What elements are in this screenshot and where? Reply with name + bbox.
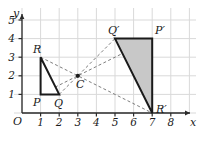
y-tick-4: 4: [7, 32, 15, 44]
coordinate-plane: 1 2 3 4 5 6 7 8 1 2 3 4 5 O x y P Q R Q′…: [0, 0, 204, 141]
y-tick-3: 3: [8, 51, 15, 63]
x-tick-3: 3: [74, 116, 81, 128]
label-p-prime: P′: [154, 24, 165, 37]
x-tick-8: 8: [167, 116, 174, 128]
label-q-prime: Q′: [108, 24, 120, 37]
label-q: Q: [54, 97, 63, 110]
x-tick-4: 4: [92, 116, 100, 128]
label-r: R: [32, 43, 41, 56]
dilation-diagram: 1 2 3 4 5 6 7 8 1 2 3 4 5 O x y P Q R Q′…: [0, 0, 204, 141]
origin-label: O: [13, 115, 22, 128]
x-tick-6: 6: [130, 116, 137, 128]
y-tick-1: 1: [8, 88, 15, 100]
x-tick-2: 2: [55, 116, 63, 128]
y-tick-2: 2: [7, 69, 15, 81]
x-axis-label: x: [190, 116, 197, 129]
label-c: C: [76, 78, 85, 91]
x-tick-1: 1: [37, 116, 44, 128]
label-r-prime: R′: [155, 103, 167, 116]
y-axis-label: y: [12, 7, 20, 20]
x-tick-5: 5: [112, 116, 119, 128]
x-tick-7: 7: [149, 116, 156, 128]
label-p: P: [32, 96, 41, 109]
